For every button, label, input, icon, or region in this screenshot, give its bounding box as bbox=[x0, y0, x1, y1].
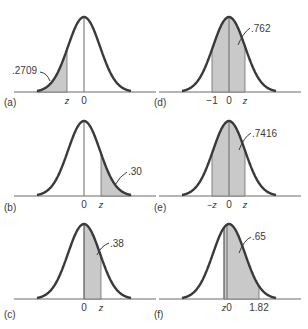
tick-label: z bbox=[98, 200, 104, 210]
tick-label: z bbox=[242, 96, 248, 106]
area-label: .65 bbox=[252, 231, 266, 242]
panel-b: .300z(b) bbox=[4, 121, 156, 213]
tick-label: z bbox=[242, 200, 248, 210]
tick-label: −z bbox=[207, 200, 217, 210]
tick-label: z bbox=[98, 303, 104, 313]
normal-curves-figure: .2709z0(a).300z(b).380z(c).762−10z(d).74… bbox=[0, 0, 308, 329]
tick-label: 0 bbox=[226, 302, 232, 313]
panel-f: .65z01.82(f) bbox=[154, 224, 301, 320]
tick-label: z bbox=[64, 96, 70, 106]
tick-label: 0 bbox=[81, 302, 87, 313]
panel-d: .762−10z(d) bbox=[154, 17, 301, 108]
tick-label: 0 bbox=[226, 199, 232, 210]
panel-label: (a) bbox=[4, 97, 16, 108]
pointer-arrow bbox=[115, 172, 127, 185]
panel-label: (b) bbox=[4, 202, 16, 213]
area-label: .30 bbox=[128, 166, 142, 177]
tick-label: 0 bbox=[81, 199, 87, 210]
panel-a: .2709z0(a) bbox=[4, 17, 156, 108]
panel-e: .7416−z0z(e) bbox=[154, 121, 301, 213]
tick-label: 0 bbox=[226, 95, 232, 106]
area-label: .2709 bbox=[12, 65, 37, 76]
pointer-arrow bbox=[40, 72, 50, 81]
shaded-area bbox=[101, 153, 131, 196]
tick-label: 1.82 bbox=[249, 302, 269, 313]
panel-c: .380z(c) bbox=[4, 224, 156, 320]
tick-label: 0 bbox=[81, 95, 87, 106]
shaded-area bbox=[37, 49, 67, 92]
panel-label: (f) bbox=[154, 309, 163, 320]
panel-label: (c) bbox=[4, 309, 16, 320]
panel-label: (d) bbox=[154, 97, 166, 108]
panel-label: (e) bbox=[154, 202, 166, 213]
tick-label: −1 bbox=[206, 95, 218, 106]
area-label: .762 bbox=[251, 23, 271, 34]
area-label: .38 bbox=[110, 238, 124, 249]
area-label: .7416 bbox=[252, 128, 277, 139]
